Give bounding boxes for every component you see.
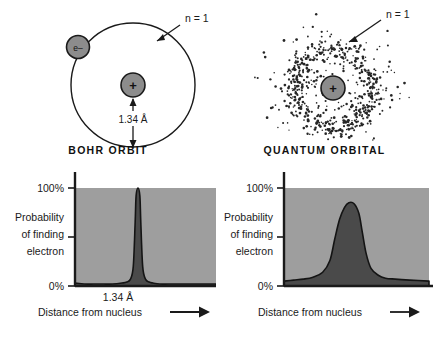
- y-axis-label-max: 100%: [246, 182, 273, 194]
- x-axis-direction-arrowhead: [199, 307, 210, 318]
- bohr-orbit-diagram: + e– 1.34 Å n = 1 BOHR ORBIT: [0, 0, 216, 170]
- y-axis-title-line-2: of finding: [230, 228, 273, 240]
- x-axis-title: Distance from nucleus: [38, 306, 142, 318]
- y-axis-label-min: 0%: [49, 280, 64, 292]
- y-axis-title-line-1: Probability: [15, 211, 65, 223]
- plot-area-background: [75, 188, 216, 286]
- y-axis-title-line-3: electron: [27, 245, 65, 257]
- bohr-orbit-caption: BOHR ORBIT: [0, 144, 216, 156]
- bohr-chart-figure: 100% 0% Probability of finding electron …: [0, 170, 216, 341]
- bohr-probability-chart: 100% 0% Probability of finding electron …: [0, 170, 216, 341]
- y-axis-title-line-3: electron: [236, 245, 274, 257]
- quantum-chart-figure: 100% 0% Probability of finding electron …: [216, 170, 433, 341]
- electron-label: e–: [73, 43, 83, 53]
- shell-number-label: n = 1: [185, 12, 209, 24]
- x-axis-direction-arrowhead: [409, 307, 420, 318]
- y-axis-label-max: 100%: [37, 182, 64, 194]
- y-axis-title-line-1: Probability: [224, 211, 274, 223]
- x-axis-title: Distance from nucleus: [258, 306, 362, 318]
- y-axis-title-line-2: of finding: [21, 228, 64, 240]
- x-axis-tick-label: 1.34 Å: [103, 291, 133, 303]
- quantum-orbital-caption: QUANTUM ORBITAL: [216, 144, 433, 156]
- radius-label: 1.34 Å: [119, 113, 148, 125]
- y-axis-label-min: 0%: [258, 280, 273, 292]
- quantum-probability-chart: 100% 0% Probability of finding electron …: [216, 170, 433, 341]
- quantum-orbital-diagram: + n = 1 QUANTUM ORBITAL: [216, 0, 433, 170]
- shell-number-label: n = 1: [386, 8, 410, 20]
- shell-label-arrowhead: [157, 34, 165, 41]
- radius-arrowhead-up: [130, 98, 137, 106]
- nucleus-charge-label: +: [329, 81, 337, 96]
- nucleus-charge-label: +: [129, 78, 137, 93]
